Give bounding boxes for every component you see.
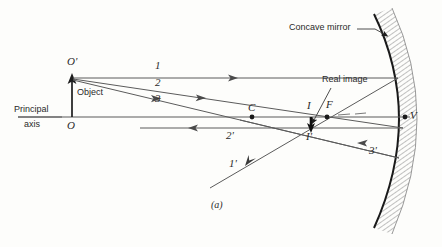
point-F — [325, 115, 330, 120]
object-base-label: O — [67, 120, 75, 131]
focal-point-label: F — [326, 99, 333, 110]
axis-dash-marks — [338, 113, 366, 115]
axis-label: axis — [24, 120, 40, 129]
image-bottom-label: I' — [306, 131, 312, 142]
image-top-label: I — [307, 100, 311, 111]
concave-mirror-leader — [357, 29, 384, 34]
ray-1-label: 1 — [155, 60, 161, 71]
ray-1-prime-label: 1' — [229, 158, 237, 169]
concave-mirror-label: Concave mirror — [289, 23, 351, 32]
figure-caption: (a) — [211, 200, 223, 210]
reflected-ray-1-prime — [210, 78, 398, 188]
ray-2-prime-label: 2' — [226, 130, 234, 141]
point-C — [250, 115, 255, 120]
real-image-label: Real image — [322, 75, 368, 84]
ray-3-prime-label: 3' — [369, 145, 377, 156]
point-V — [403, 115, 408, 120]
principal-label: Principal — [14, 105, 49, 114]
object-label: Object — [77, 88, 103, 97]
ray-3-label: 3 — [155, 93, 161, 104]
center-curvature-label: C — [248, 102, 255, 113]
ray-2-label: 2 — [155, 77, 161, 88]
object-top-label: O' — [67, 56, 77, 67]
concave-mirror — [374, 8, 417, 234]
vertex-label: V — [410, 110, 417, 121]
